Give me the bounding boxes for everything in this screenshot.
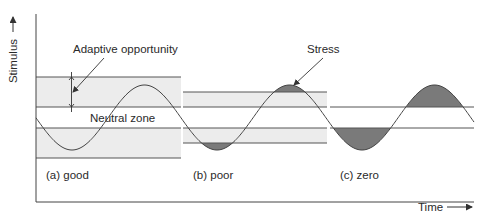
adaptive-band-lower — [183, 128, 327, 143]
adaptive-opportunity-label: Adaptive opportunity — [73, 43, 178, 55]
stress-pointer — [294, 58, 323, 85]
adaptive-band-lower — [36, 128, 181, 158]
stress-label: Stress — [307, 43, 340, 55]
y-axis-label: Stimulus — [7, 39, 19, 83]
neutral-zone-label: Neutral zone — [90, 112, 155, 124]
adaptive-band-upper — [183, 92, 327, 107]
x-axis-label: Time — [418, 201, 443, 213]
adaptive-opportunity-diagram: Stimulus Time Adaptive opportunity Neutr… — [0, 0, 494, 213]
y-axis-label-group: Stimulus — [7, 17, 19, 83]
panel-label-poor: (b) poor — [193, 169, 233, 181]
panel-label-good: (a) good — [46, 169, 89, 181]
panel-label-zero: (c) zero — [340, 169, 379, 181]
x-axis-label-group: Time — [418, 201, 472, 213]
